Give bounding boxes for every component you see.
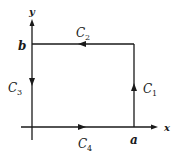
svg-text:C: C [78,137,87,151]
segment-label-c2: C 2 [76,26,90,42]
svg-text:2: 2 [85,33,90,42]
svg-text:C: C [76,26,85,40]
point-b-label: b [18,39,26,53]
segment-label-c4: C 4 [78,137,92,153]
segment-label-c1: C 1 [143,82,157,98]
segment-label-c3: C 3 [8,81,22,97]
c4-right-arrow-icon [78,124,86,130]
svg-text:1: 1 [152,89,157,98]
x-axis-arrowhead-icon [151,125,158,130]
svg-text:4: 4 [87,144,92,153]
c3-down-arrow-icon [29,78,35,86]
svg-text:C: C [8,81,17,95]
contour-diagram: y x b a C 1 C 2 C 3 C 4 [0,0,182,156]
svg-text:C: C [143,82,152,96]
y-axis-arrowhead-icon [30,19,35,26]
point-a-label: a [130,133,138,147]
x-axis-label: x [163,122,171,133]
svg-text:3: 3 [17,88,22,97]
c1-up-arrow-icon [131,83,137,91]
y-axis-label: y [28,6,36,17]
